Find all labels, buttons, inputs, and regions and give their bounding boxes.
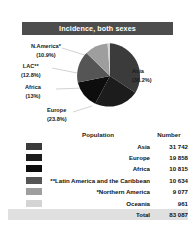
table-cell-number: 10 634 [150,175,188,186]
pie-chart-area: N.America* (10.9%) LAC** (12.8%) Africa … [0,36,195,130]
legend-table: Population Number Asia31 742Europe19 858… [8,130,188,220]
page-title: Incidence, both sexes [59,24,136,33]
pie-label-asia-name: Asia [132,68,144,74]
legend-color-swatch [26,200,42,207]
table-cell-population: **Latin America and the Caribbean [46,175,150,186]
table-cell-number: 31 742 [150,141,188,152]
table-row: Asia31 742 [8,141,188,152]
table-cell-population: Asia [46,141,150,152]
table-cell-number: 961 [150,197,188,208]
pie-label-lac: LAC** (12.8%) [21,62,41,79]
pie-label-asia-pct: (38.2%) [132,76,152,85]
infographic-root: Incidence, both sexes [0,0,195,242]
table-cell-swatch [8,175,46,186]
table-row: *Northern America9 077 [8,186,188,197]
table-cell-population: Total [46,209,150,220]
legend-color-swatch [26,154,42,161]
table-cell-swatch [8,186,46,197]
table-cell-number: 9 077 [150,186,188,197]
pie-label-lac-name: LAC** [23,63,39,69]
table-cell-number: 83 087 [150,209,188,220]
table-header-row: Population Number [8,130,188,141]
table-cell-population: Africa [46,163,150,174]
legend-color-swatch [26,188,42,195]
pie-label-europe-pct: (23.8%) [47,115,67,124]
pie-label-africa-pct: (13%) [25,92,41,101]
table-body: Asia31 742Europe19 858Africa10 815**Lati… [8,141,188,221]
table-cell-swatch [8,141,46,152]
table-row-total: Total83 087 [8,209,188,220]
table-cell-population: *Northern America [46,186,150,197]
table-cell-swatch [8,209,46,220]
table-header-number: Number [150,130,188,141]
pie-label-europe: Europe (23.8%) [47,106,67,123]
pie-label-northern-america-pct: (10.9%) [31,51,61,60]
pie-label-africa: Africa (13%) [25,83,41,100]
legend-color-swatch [26,165,42,172]
pie-label-asia: Asia (38.2%) [132,67,152,84]
pie-label-lac-pct: (12.8%) [21,71,41,80]
legend-color-swatch [26,177,42,184]
table-cell-population: Oceania [46,197,150,208]
table-cell-swatch [8,152,46,163]
chart-header-bar: Incidence, both sexes [22,22,173,35]
table-header-population: Population [46,130,150,141]
table-cell-population: Europe [46,152,150,163]
table-row: Africa10 815 [8,163,188,174]
legend-color-swatch [26,143,42,150]
pie-label-africa-name: Africa [25,84,41,90]
pie-label-northern-america-name: N.America* [31,43,61,49]
pie-label-europe-name: Europe [47,107,66,113]
table-header-swatch [8,130,46,141]
table-row: Europe19 858 [8,152,188,163]
pie-label-northern-america: N.America* (10.9%) [31,42,61,59]
table-cell-number: 10 815 [150,163,188,174]
table-cell-swatch [8,163,46,174]
table-cell-swatch [8,197,46,208]
table-cell-number: 19 858 [150,152,188,163]
table-row: **Latin America and the Caribbean10 634 [8,175,188,186]
table-row: Oceania961 [8,197,188,208]
legend-table-area: Population Number Asia31 742Europe19 858… [0,130,195,220]
